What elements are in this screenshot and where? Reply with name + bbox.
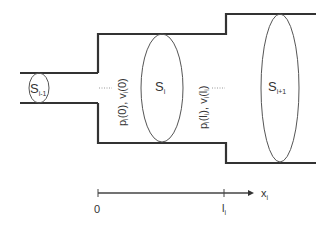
label-start-conditions: pi(0), vi(0)	[116, 78, 129, 126]
label-end-conditions: pi(li), vi(li)	[197, 85, 210, 129]
pipe-diagram: Si-1 Si Si+1 pi(0), vi(0) pi(li), vi(li)…	[0, 0, 328, 226]
label-s-next: Si+1	[268, 79, 286, 95]
x-axis-arrowhead	[248, 190, 254, 196]
label-s-prev: Si-1	[30, 81, 47, 97]
axis-label-length: li	[222, 202, 226, 216]
axis-label-variable: xi	[261, 187, 269, 201]
upper-wall	[98, 14, 316, 73]
axis-label-origin: 0	[94, 203, 100, 215]
label-s-current: Si	[155, 79, 166, 95]
